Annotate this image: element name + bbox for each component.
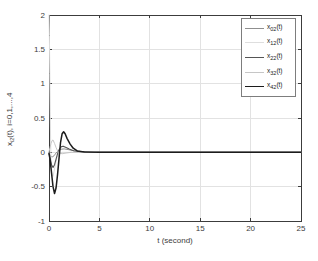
y-tick-label: 0.5 <box>34 114 46 123</box>
y-axis-label-suffix: (t), i=0,1,...,4 <box>5 93 14 138</box>
figure-canvas: 0510152025-1-0.500.511.52 xi2(t), i=0,1,… <box>0 0 318 261</box>
legend-item-4: x42(t) <box>242 79 295 94</box>
legend-line-sample <box>245 57 264 58</box>
legend-item-label: x42(t) <box>267 82 283 91</box>
legend-item-label: x02(t) <box>267 24 283 33</box>
y-tick-label: -0.5 <box>31 182 45 191</box>
x-tick-label: 25 <box>297 224 306 233</box>
legend-item-label: x22(t) <box>267 53 283 62</box>
x-tick-label: 20 <box>246 224 255 233</box>
y-tick-label: -1 <box>38 217 46 226</box>
series-line-2 <box>49 146 301 167</box>
y-axis-label-base: x <box>5 142 14 146</box>
legend-line-sample <box>245 42 264 43</box>
x-axis-label: t (second) <box>49 236 301 245</box>
legend-item-2: x22(t) <box>242 50 295 65</box>
legend-item-3: x32(t) <box>242 65 295 80</box>
legend: x02(t)x12(t)x22(t)x32(t)x42(t) <box>241 18 296 97</box>
legend-item-1: x12(t) <box>242 36 295 51</box>
series-line-4 <box>49 132 301 194</box>
y-tick-label: 0 <box>41 148 46 157</box>
y-axis-label-sub: i2 <box>9 138 15 142</box>
y-tick-label: 1 <box>41 79 46 88</box>
legend-line-sample <box>245 28 264 29</box>
y-axis-label: xi2(t), i=0,1,...,4 <box>5 54 16 184</box>
x-tick-label: 10 <box>145 224 154 233</box>
y-tick-label: 2 <box>41 11 46 20</box>
y-tick-label: 1.5 <box>34 45 46 54</box>
x-tick-label: 15 <box>196 224 205 233</box>
legend-line-sample <box>245 86 264 87</box>
legend-item-label: x32(t) <box>267 68 283 77</box>
legend-line-sample <box>245 72 264 73</box>
x-tick-label: 5 <box>97 224 102 233</box>
legend-item-label: x12(t) <box>267 38 283 47</box>
x-tick-label: 0 <box>47 224 52 233</box>
legend-item-0: x02(t) <box>242 21 295 36</box>
